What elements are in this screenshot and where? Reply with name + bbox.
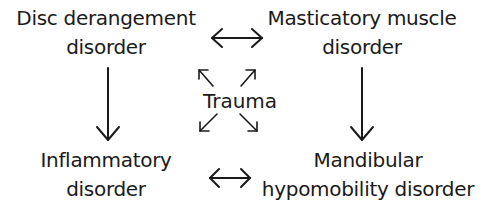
node-masticatory-muscle-disorder: Masticatory muscle disorder [252, 4, 472, 62]
node-label-line: Mandibular [250, 146, 486, 175]
diagonal-arrow-icon-up-right [241, 70, 255, 86]
down-arrow-icon-left [97, 68, 119, 140]
center-node-trauma: Trauma [190, 88, 290, 114]
diagonal-arrow-icon-down-left [200, 114, 217, 131]
node-label-line: disorder [0, 33, 212, 62]
bidirectional-arrow-icon-bottom [210, 169, 250, 187]
node-label-line: Masticatory muscle [252, 4, 472, 33]
node-label-line: Inflammatory [0, 146, 212, 175]
diagonal-arrow-icon-up-left [199, 70, 213, 86]
node-label-line: disorder [252, 33, 472, 62]
node-label-line: disorder [0, 175, 212, 204]
node-mandibular-hypomobility-disorder: Mandibular hypomobility disorder [250, 146, 486, 204]
node-disc-derangement-disorder: Disc derangement disorder [0, 4, 212, 62]
diagonal-arrow-icon-down-right [240, 114, 257, 131]
node-label-line: hypomobility disorder [250, 175, 486, 204]
node-inflammatory-disorder: Inflammatory disorder [0, 146, 212, 204]
down-arrow-icon-right [351, 68, 373, 140]
node-label-line: Disc derangement [0, 4, 212, 33]
